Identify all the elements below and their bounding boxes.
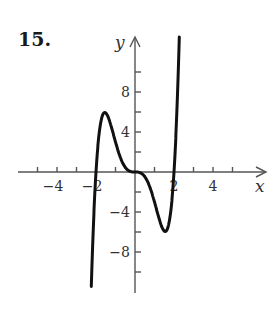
x-tick-label: −4 xyxy=(43,178,64,194)
y-tick-label: −4 xyxy=(109,204,130,220)
axes xyxy=(18,37,266,293)
y-tick-label: −8 xyxy=(109,244,130,260)
x-tick-label: −2 xyxy=(82,178,103,194)
function-graph: −4−22484−4−8 y x xyxy=(0,0,278,315)
x-axis-label: x xyxy=(255,176,265,196)
y-tick-label: 8 xyxy=(121,84,130,100)
y-tick-label: 4 xyxy=(121,124,130,140)
x-tick-label: 4 xyxy=(209,178,218,194)
y-axis-label: y xyxy=(114,32,125,52)
